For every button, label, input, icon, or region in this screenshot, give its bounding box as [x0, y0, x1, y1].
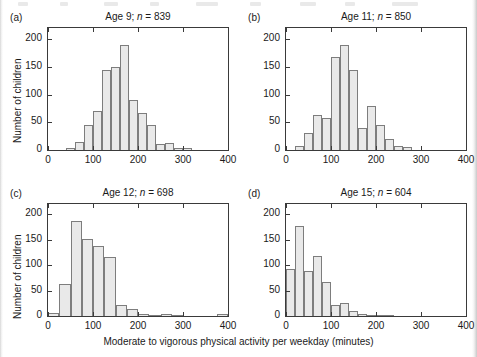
y-tick-label: 200 — [247, 32, 280, 43]
histogram-bar — [93, 111, 102, 150]
panel-c-plot-area — [47, 203, 229, 317]
x-tick-label: 0 — [28, 320, 68, 331]
x-tick-label: 400 — [208, 320, 248, 331]
panel-c-bars — [48, 204, 228, 316]
x-tick — [138, 312, 139, 316]
x-tick-top — [48, 28, 49, 32]
x-tick-top — [138, 28, 139, 32]
histogram-bar — [71, 221, 82, 316]
x-tick-top — [331, 204, 332, 208]
panel-b-title-n-value: = 850 — [386, 11, 411, 22]
panel-a-ylabel: Number of children — [12, 59, 23, 143]
histogram-bar — [217, 314, 228, 316]
panel-d-title-n-symbol: n — [378, 187, 384, 198]
y-tick-label: 0 — [247, 309, 280, 320]
histogram-bar — [331, 57, 340, 150]
histogram-bar — [104, 257, 115, 316]
y-tick — [286, 214, 290, 215]
x-tick-label: 400 — [208, 154, 248, 165]
x-tick-top — [466, 28, 467, 32]
x-tick-label: 300 — [401, 154, 441, 165]
y-tick-label: 50 — [247, 115, 280, 126]
panel-a-title-n-symbol: n — [137, 11, 143, 22]
histogram-bar — [102, 70, 111, 150]
y-tick-label: 150 — [247, 233, 280, 244]
x-tick — [286, 312, 287, 316]
histogram-bar — [376, 315, 385, 316]
panel-c-title-n-symbol: n — [140, 187, 146, 198]
histogram-bar — [59, 284, 70, 316]
histogram-bar — [286, 269, 295, 316]
y-tick-label: 150 — [9, 60, 42, 71]
histogram-bar — [156, 144, 165, 150]
y-tick — [48, 265, 52, 266]
y-tick — [48, 67, 52, 68]
y-tick-label: 200 — [9, 32, 42, 43]
x-tick — [183, 312, 184, 316]
panel-a-plot-area — [47, 27, 229, 151]
y-tick — [48, 240, 52, 241]
panel-a-title: Age 9; n = 839 — [48, 11, 228, 22]
y-tick-label: 50 — [9, 284, 42, 295]
x-tick — [331, 146, 332, 150]
panel-c-title: Age 12; n = 698 — [48, 187, 228, 198]
y-tick — [286, 150, 290, 151]
panel-b-plot-area — [285, 27, 467, 151]
x-tick — [421, 312, 422, 316]
x-tick-top — [228, 28, 229, 32]
histogram-bar — [111, 67, 120, 150]
x-tick-top — [466, 204, 467, 208]
y-tick-label: 100 — [247, 88, 280, 99]
y-tick — [286, 265, 290, 266]
y-tick — [48, 291, 52, 292]
histogram-bar — [385, 139, 394, 150]
panel-c-title-n-value: = 698 — [148, 187, 173, 198]
y-tick — [286, 240, 290, 241]
histogram-bar — [66, 148, 75, 150]
histogram-bar — [349, 311, 358, 316]
x-tick — [376, 146, 377, 150]
x-tick-label: 100 — [311, 154, 351, 165]
panel-a-title-n-value: = 839 — [145, 11, 170, 22]
y-tick — [48, 95, 52, 96]
panel-a-tag: (a) — [10, 12, 23, 23]
x-tick-label: 400 — [446, 320, 477, 331]
histogram-bar — [295, 146, 304, 150]
panel-b-bars — [286, 28, 466, 150]
histogram-bar — [340, 45, 349, 150]
histogram-bar — [358, 314, 367, 316]
x-tick-label: 300 — [163, 320, 203, 331]
x-tick-label: 100 — [73, 154, 113, 165]
x-tick — [228, 312, 229, 316]
x-tick-top — [331, 28, 332, 32]
histogram-bar — [313, 115, 322, 150]
histogram-bar — [93, 246, 104, 316]
histogram-bar — [367, 106, 376, 150]
histogram-bar — [322, 118, 331, 150]
y-tick — [286, 67, 290, 68]
histogram-bar — [304, 271, 313, 316]
y-tick — [286, 95, 290, 96]
y-tick-label: 100 — [9, 88, 42, 99]
panel-a-title-age: Age 9; — [105, 11, 134, 22]
panel-a-bars — [48, 28, 228, 150]
y-tick-label: 50 — [9, 115, 42, 126]
histogram-bar — [394, 146, 403, 150]
x-tick-top — [93, 204, 94, 208]
histogram-bar — [127, 309, 138, 316]
y-tick-label: 150 — [247, 60, 280, 71]
y-tick — [286, 291, 290, 292]
panel-b-title-age: Age 11; — [341, 11, 375, 22]
x-tick-label: 100 — [73, 320, 113, 331]
figure-histogram-grid: (a) Age 9; n = 839 Number of children 05… — [0, 0, 477, 357]
histogram-bar — [349, 70, 358, 150]
x-tick-top — [286, 204, 287, 208]
panel-d-title: Age 15; n = 604 — [286, 187, 466, 198]
histogram-bar — [82, 239, 93, 316]
x-tick-label: 0 — [266, 320, 306, 331]
histogram-bar — [367, 315, 376, 316]
histogram-bar — [295, 226, 304, 316]
x-tick — [48, 146, 49, 150]
y-tick-label: 0 — [9, 143, 42, 154]
y-tick-label: 100 — [247, 258, 280, 269]
